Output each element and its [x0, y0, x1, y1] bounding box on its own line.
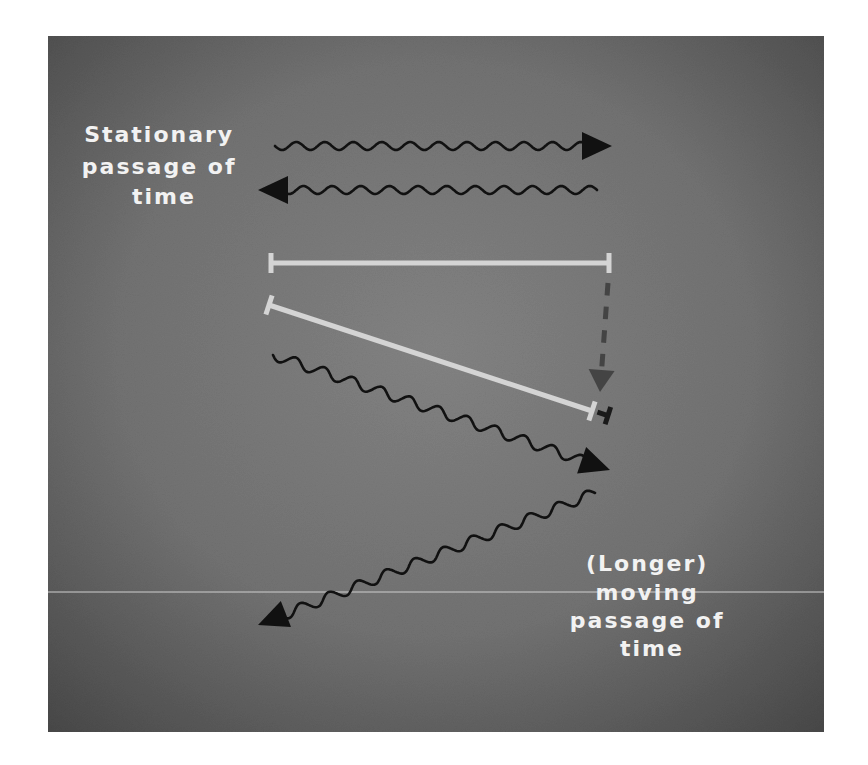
moving-label-line-1: (Longer): [586, 551, 708, 576]
moving-label-line-2: moving: [595, 580, 698, 605]
time-dilation-figure: Stationary passage of time (Longer) movi…: [0, 0, 868, 765]
moving-label-line-3: passage of: [570, 608, 725, 633]
moving-label-line-4: time: [620, 636, 684, 661]
stationary-label-line-1: Stationary: [84, 122, 234, 147]
stationary-label-line-3: time: [132, 184, 196, 209]
stationary-label-line-2: passage of: [82, 154, 237, 179]
